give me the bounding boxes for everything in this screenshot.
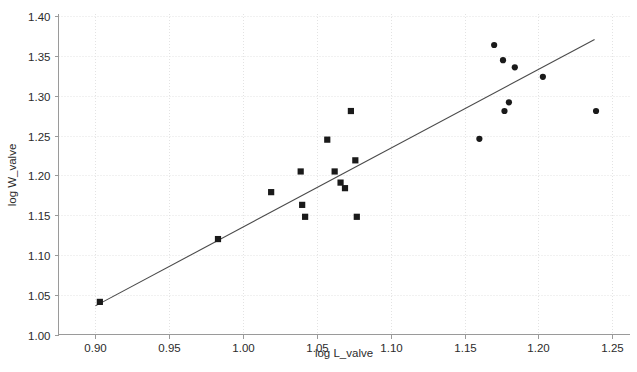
data-point-square (302, 214, 308, 220)
data-point-square (337, 180, 343, 186)
data-point-square (299, 202, 305, 208)
y-tick-label: 1.00 (28, 330, 50, 342)
fitted-regression-line (95, 39, 594, 305)
plot-canvas: 0.900.951.001.051.101.151.201.25 1.001.0… (0, 0, 637, 372)
y-tick-label: 1.30 (28, 91, 50, 103)
x-tick-label: 1.10 (380, 342, 402, 354)
y-axis-ticks (55, 17, 59, 336)
x-tick-label: 1.00 (232, 342, 254, 354)
y-tick-label: 1.25 (28, 131, 50, 143)
x-axis-title: log L_valve (315, 347, 373, 359)
y-tick-label: 1.15 (28, 210, 50, 222)
axis-lines (59, 14, 631, 335)
x-tick-label: 0.95 (158, 342, 180, 354)
data-point-circle (500, 57, 506, 63)
x-tick-label: 1.25 (601, 342, 623, 354)
scatter-plot-figure: 0.900.951.001.051.101.151.201.25 1.001.0… (0, 0, 637, 372)
data-point-circle (476, 136, 482, 142)
y-tick-label: 1.10 (28, 250, 50, 262)
data-point-square (215, 236, 221, 242)
data-point-square (342, 185, 348, 191)
data-point-circle (593, 108, 599, 114)
x-gridlines (96, 14, 613, 335)
data-point-square (268, 189, 274, 195)
data-point-circle (501, 108, 507, 114)
data-point-square (332, 168, 338, 174)
x-tick-label: 1.15 (454, 342, 476, 354)
data-point-circle (491, 42, 497, 48)
data-point-square (352, 157, 358, 163)
y-tick-label: 1.35 (28, 51, 50, 63)
data-point-square (97, 299, 103, 305)
data-point-square (354, 214, 360, 220)
x-axis-ticks (96, 335, 613, 339)
data-point-square (324, 137, 330, 143)
y-tick-label: 1.05 (28, 290, 50, 302)
x-tick-label: 0.90 (84, 342, 106, 354)
x-tick-label: 1.20 (527, 342, 549, 354)
y-axis-title: log W_valve (6, 144, 18, 207)
data-point-square (298, 168, 304, 174)
data-points-square-series (97, 108, 360, 305)
y-tick-labels: 1.001.051.101.151.201.251.301.351.40 (28, 11, 50, 342)
y-gridlines (59, 17, 631, 296)
y-tick-label: 1.40 (28, 11, 50, 23)
data-point-circle (540, 74, 546, 80)
data-point-circle (512, 64, 518, 70)
y-tick-label: 1.20 (28, 170, 50, 182)
data-point-circle (506, 99, 512, 105)
data-point-square (348, 108, 354, 114)
